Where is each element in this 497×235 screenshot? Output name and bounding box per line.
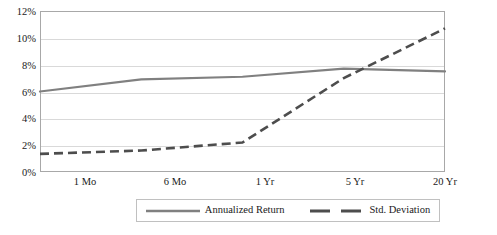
legend-swatch-dashed-icon — [310, 208, 364, 214]
x-tick-label: 20 Yr — [433, 176, 457, 187]
x-tick-label: 5 Yr — [346, 176, 365, 187]
y-tick-label: 6% — [0, 86, 36, 97]
y-tick-label: 2% — [0, 140, 36, 151]
chart-legend: Annualized Return Std. Deviation — [136, 199, 440, 222]
y-tick-label: 4% — [0, 113, 36, 124]
legend-swatch-solid-icon — [146, 208, 200, 214]
y-tick-label: 10% — [0, 32, 36, 43]
series-layer — [40, 11, 445, 172]
y-tick-label: 12% — [0, 6, 36, 17]
legend-entry-annualized-return: Annualized Return — [146, 205, 285, 216]
y-tick-label: 8% — [0, 59, 36, 70]
chart-title: Annualized Return and Standard Deviation — [0, 0, 497, 1]
x-tick-label: 6 Mo — [164, 176, 186, 187]
line-chart: Annualized Return and Standard Deviation… — [0, 0, 497, 235]
legend-label: Std. Deviation — [369, 205, 430, 216]
x-tick-label: 1 Yr — [256, 176, 275, 187]
y-tick-label: 0% — [0, 167, 36, 178]
x-axis: 1 Mo 6 Mo 1 Yr 5 Yr 20 Yr — [40, 176, 445, 190]
series-std-deviation-line — [40, 28, 445, 153]
legend-label: Annualized Return — [205, 205, 285, 216]
legend-entry-std-deviation: Std. Deviation — [310, 205, 430, 216]
x-tick-label: 1 Mo — [74, 176, 96, 187]
series-annualized-return-line — [40, 69, 445, 92]
y-axis: 12% 10% 8% 6% 4% 2% 0% — [0, 11, 36, 172]
